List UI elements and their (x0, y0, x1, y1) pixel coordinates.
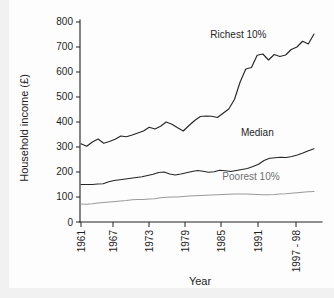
line-chart-svg: Household income (£) 800 700 600 500 400… (0, 0, 334, 298)
chart-background (0, 0, 334, 298)
chart-figure: Household income (£) 800 700 600 500 400… (0, 0, 334, 298)
y-tick-label-700: 700 (56, 41, 73, 52)
series-label-poorest-10-percent: Poorest 10% (222, 171, 279, 182)
y-tick-label-0: 0 (67, 217, 73, 228)
y-tick-label-500: 500 (56, 91, 73, 102)
x-tick-label-1973: 1973 (144, 230, 155, 253)
x-tick-label-1979: 1979 (180, 230, 191, 253)
y-tick-label-600: 600 (56, 66, 73, 77)
x-tick-label-1967: 1967 (108, 230, 119, 253)
series-label-median: Median (241, 127, 274, 138)
page-edge-band-bottom (0, 288, 334, 298)
x-tick-label-1997-98: 1997 - 98 (291, 230, 302, 273)
x-tick-label-1961: 1961 (76, 230, 87, 253)
y-axis-title: Household income (£) (18, 74, 30, 182)
y-tick-label-200: 200 (56, 166, 73, 177)
series-label-richest-10-percent: Richest 10% (210, 29, 266, 40)
y-tick-label-100: 100 (56, 191, 73, 202)
x-tick-label-1991: 1991 (253, 230, 264, 253)
x-tick-label-1985: 1985 (216, 230, 227, 253)
y-tick-label-800: 800 (56, 16, 73, 27)
y-tick-label-300: 300 (56, 141, 73, 152)
page-edge-band-left (0, 0, 9, 298)
x-axis-title: Year (189, 275, 212, 287)
y-tick-label-400: 400 (56, 116, 73, 127)
